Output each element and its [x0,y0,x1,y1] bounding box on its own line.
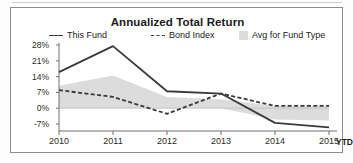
x-axis-tick-label: 2014 [255,136,295,146]
x-axis-tick-label: 2013 [201,136,241,146]
y-axis-tick-label: 0% [19,103,49,113]
y-axis-tick-label: 21% [19,56,49,66]
y-axis-tick-label: 14% [19,72,49,82]
top-divider [12,0,342,3]
y-axis-tick-label: 7% [19,87,49,97]
chart-screenshot: Annualized Total Return This Fund Bond I… [0,0,353,163]
chart-canvas [11,8,344,154]
plot-area [11,8,344,154]
y-axis-tick-label: -7% [19,119,49,129]
y-axis-tick-label: 28% [19,40,49,50]
x-axis-ytd-label: YTD [336,137,353,147]
x-axis-tick-label: 2011 [93,136,133,146]
avg-band-area [59,75,329,120]
chart-card: Annualized Total Return This Fund Bond I… [10,7,343,153]
x-axis-tick-label: 2012 [147,136,187,146]
x-axis-tick-label: 2010 [39,136,79,146]
